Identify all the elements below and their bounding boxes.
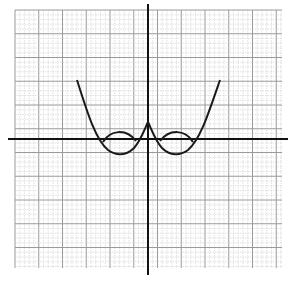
graph-paper-chart [0, 0, 298, 285]
